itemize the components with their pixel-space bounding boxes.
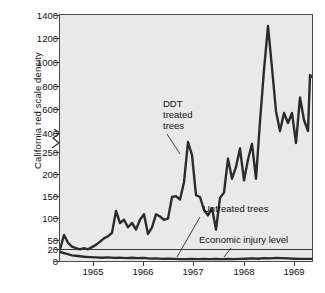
series-ddt-treated-trees — [60, 26, 312, 250]
y-tick-label-1400: 1400 — [18, 11, 58, 21]
annotation-ddt-treated-trees: DDT treated trees — [163, 98, 193, 131]
y-tick-label-800: 800 — [18, 82, 58, 92]
y-tick-label-600: 600 — [18, 105, 58, 115]
x-tick-label-1969: 1969 — [271, 266, 317, 277]
x-tick-label-1965: 1965 — [70, 266, 116, 277]
y-tick-label-20: 20 — [18, 245, 58, 255]
y-tick-label-1200: 1200 — [18, 34, 58, 44]
series-untreated-trees — [60, 252, 312, 259]
plot-area — [59, 14, 313, 262]
y-tick-label-200: 200 — [18, 170, 58, 180]
y-tick-label-100: 100 — [18, 214, 58, 224]
x-tick-label-1968: 1968 — [221, 266, 267, 277]
y-tick-label-250: 250 — [18, 148, 58, 158]
annotation-ddt-line-1: DDT — [163, 98, 193, 109]
chart-figure: California red scale density 1400 1200 1… — [0, 0, 325, 293]
annotation-ddt-line-2: treated — [163, 109, 193, 120]
y-tick-label-0: 0 — [18, 257, 58, 267]
y-tick-label-1000: 1000 — [18, 58, 58, 68]
plot-svg — [60, 15, 312, 261]
x-tick-label-1966: 1966 — [120, 266, 166, 277]
annotation-ddt-line-3: trees — [163, 120, 193, 131]
annotation-economic-injury-level: Economic injury level — [199, 234, 288, 245]
annotation-untreated-trees: Untreated trees — [203, 203, 268, 214]
y-tick-label-150: 150 — [18, 192, 58, 202]
x-tick-label-1967: 1967 — [170, 266, 216, 277]
